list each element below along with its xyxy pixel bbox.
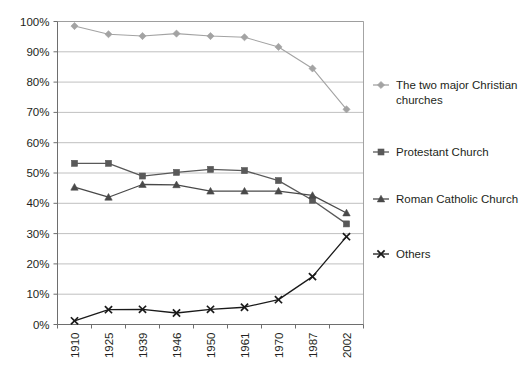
gridlines: [58, 22, 364, 295]
legend-label: Roman Catholic Church: [396, 193, 518, 205]
y-axis-tick-label: 60%: [26, 137, 49, 149]
diamond-marker-icon: [139, 32, 146, 39]
data-series-group: [71, 22, 350, 324]
square-marker-icon: [106, 160, 112, 166]
x-axis-tick-label: 1970: [273, 333, 285, 359]
cross-marker-icon: [309, 273, 316, 280]
square-marker-icon: [276, 178, 282, 184]
chart-legend: The two major ChristianchurchesProtestan…: [373, 79, 518, 260]
y-axis-tick-label: 70%: [26, 106, 49, 118]
y-axis-tick-label: 20%: [26, 258, 49, 270]
square-marker-icon: [242, 168, 248, 174]
y-axis-tick-label: 90%: [26, 46, 49, 58]
cross-marker-icon: [71, 317, 78, 324]
diamond-marker-icon: [173, 30, 180, 37]
y-axis-tick-label: 40%: [26, 197, 49, 209]
legend-label: Others: [396, 248, 431, 260]
cross-marker-icon: [343, 233, 350, 240]
legend-label: The two major Christian: [396, 79, 517, 91]
y-axis-tick-label: 100%: [20, 16, 49, 28]
legend-label: Protestant Church: [396, 146, 489, 158]
legend-entry-4[interactable]: Others: [373, 248, 431, 260]
x-axis-tick-label: 1925: [103, 333, 115, 359]
x-axis-tick-label: 2002: [341, 333, 353, 359]
legend-label-line2: churches: [396, 94, 443, 106]
square-marker-icon: [174, 169, 180, 175]
x-axis-tick-label: 1961: [239, 333, 251, 359]
series-4: [71, 233, 350, 324]
square-marker-icon: [72, 160, 78, 166]
triangle-marker-icon: [343, 209, 350, 216]
y-axis-tick-label: 0%: [33, 319, 50, 331]
x-axis-tick-label: 1987: [307, 333, 319, 359]
chart-canvas: 0%10%20%30%40%50%60%70%80%90%100% 191019…: [0, 0, 522, 377]
x-axis-tick-label: 1950: [205, 333, 217, 359]
square-marker-icon: [140, 173, 146, 179]
diamond-marker-icon: [377, 81, 384, 88]
legend-entry-2[interactable]: Protestant Church: [373, 146, 489, 158]
x-axis-tick-label: 1910: [69, 333, 81, 359]
square-marker-icon: [344, 221, 350, 227]
y-axis-tick-labels: 0%10%20%30%40%50%60%70%80%90%100%: [20, 16, 57, 331]
square-marker-icon: [378, 149, 384, 155]
diamond-marker-icon: [71, 22, 78, 29]
diamond-marker-icon: [241, 34, 248, 41]
square-marker-icon: [208, 166, 214, 172]
x-axis-tick-label: 1946: [171, 333, 183, 359]
y-axis-tick-label: 10%: [26, 288, 49, 300]
diamond-marker-icon: [207, 32, 214, 39]
x-axis-tick-labels: 191019251939194619501961197019872002: [58, 325, 364, 359]
diamond-marker-icon: [105, 31, 112, 38]
legend-entry-1[interactable]: The two major Christianchurches: [373, 79, 517, 106]
y-axis-tick-label: 30%: [26, 228, 49, 240]
diamond-marker-icon: [275, 43, 282, 50]
x-axis-tick-label: 1939: [137, 333, 149, 359]
y-axis-tick-label: 80%: [26, 76, 49, 88]
line-chart: 0%10%20%30%40%50%60%70%80%90%100% 191019…: [0, 0, 522, 377]
triangle-marker-icon: [71, 184, 78, 191]
series-1: [71, 22, 350, 113]
legend-entry-3[interactable]: Roman Catholic Church: [373, 193, 518, 205]
y-axis-tick-label: 50%: [26, 167, 49, 179]
